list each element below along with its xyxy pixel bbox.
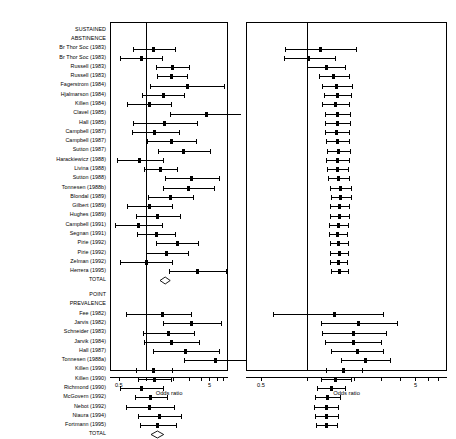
study-ci-cap [175, 232, 176, 237]
study-point-estimate [170, 340, 173, 345]
cumulative-ci-cap [307, 65, 308, 70]
cumulative-ci-cap [326, 368, 327, 373]
cumulative-ci-cap [348, 269, 349, 274]
study-label: Hall (1985) [79, 120, 106, 125]
x-axis-line-right [246, 377, 447, 378]
cumulative-ci-cap [322, 84, 323, 89]
study-ci-cap [210, 149, 211, 154]
study-label: Harackiewicz (1988) [56, 157, 106, 162]
cumulative-ci-cap [383, 312, 384, 317]
study-ci-cap [176, 423, 177, 428]
cumulative-point-estimate [336, 167, 339, 172]
cumulative-point-estimate [325, 414, 328, 419]
cumulative-point-estimate [335, 130, 338, 135]
x-axis-tick [354, 377, 355, 381]
x-axis-tick [438, 377, 439, 381]
cumulative-ci-cap [330, 204, 331, 209]
study-ci-cap [171, 102, 172, 107]
x-axis-tick [119, 377, 120, 381]
x-axis-tick [261, 377, 262, 381]
study-ci-cap [165, 176, 166, 181]
study-label: Jarvik (1984) [74, 339, 106, 344]
cumulative-ci-cap [350, 149, 351, 154]
study-label: Russell (1983) [71, 64, 106, 69]
study-ci-cap [150, 84, 151, 89]
cumulative-point-estimate [334, 102, 337, 107]
cumulative-ci-cap [338, 405, 339, 410]
cumulative-point-estimate [364, 358, 367, 363]
study-label: Campbell (1991) [65, 222, 106, 227]
x-axis-tick-label: 0.5 [251, 382, 271, 388]
study-ci-cap [132, 130, 133, 135]
cumulative-ci-cap [285, 47, 286, 52]
x-axis-tick [201, 377, 202, 381]
cumulative-ci-cap [348, 167, 349, 172]
cumulative-ci-cap [335, 56, 336, 61]
study-point-estimate [182, 149, 185, 154]
study-label: Hjalmarson (1984) [61, 92, 106, 97]
study-ci-cap [163, 321, 164, 326]
x-axis-tick [415, 377, 416, 381]
study-ci-cap [127, 102, 128, 107]
cumulative-ci-cap [330, 214, 331, 219]
study-label: Nebot (1992) [74, 404, 106, 409]
cumulative-point-estimate [336, 232, 339, 237]
cumulative-point-estimate [356, 349, 359, 354]
cumulative-point-estimate [336, 158, 339, 163]
cumulative-ci-cap [397, 321, 398, 326]
cumulative-point-estimate [337, 149, 340, 154]
cumulative-ci-cap [348, 251, 349, 256]
study-ci-cap [126, 405, 127, 410]
study-point-estimate [156, 423, 159, 428]
cumulative-ci-cap [338, 414, 339, 419]
study-point-estimate [152, 368, 155, 373]
cumulative-ci-cap [352, 84, 353, 89]
study-label: Campbell (1987) [65, 129, 106, 134]
study-ci-cap [196, 139, 197, 144]
cumulative-ci-cap [328, 176, 329, 181]
cumulative-point-estimate [336, 121, 339, 126]
study-label: Russell (1983) [71, 73, 106, 78]
study-ci-cap [144, 167, 145, 172]
study-point-estimate [187, 186, 190, 191]
cumulative-ci-cap [356, 47, 357, 52]
cumulative-ci-cap [351, 186, 352, 191]
cumulative-point-estimate [336, 139, 339, 144]
cumulative-ci-line [273, 314, 383, 315]
study-label: Schneider (1983) [64, 329, 106, 334]
study-point-estimate [171, 65, 174, 70]
study-label: Tonnesen (1988b) [62, 185, 106, 190]
study-label: Herrera (1995) [70, 268, 106, 273]
study-ci-cap [172, 204, 173, 209]
cumulative-ci-cap [330, 186, 331, 191]
study-ci-cap [156, 241, 157, 246]
cumulative-ci-cap [345, 65, 346, 70]
cumulative-point-estimate [337, 241, 340, 246]
study-point-estimate [145, 260, 148, 265]
study-ci-cap [117, 158, 118, 163]
cumulative-ci-cap [381, 340, 382, 345]
study-point-estimate [163, 121, 166, 126]
cumulative-ci-cap [347, 232, 348, 237]
cumulative-ci-cap [331, 349, 332, 354]
study-label: Fagerstrom (1984) [61, 82, 107, 87]
x-axis-tick [428, 377, 429, 381]
cumulative-ci-cap [337, 423, 338, 428]
study-label: Tonnesen (1988a) [62, 357, 106, 362]
study-ci-cap [219, 349, 220, 354]
cumulative-point-estimate [337, 260, 340, 265]
cumulative-ci-cap [329, 232, 330, 237]
study-ci-cap [115, 223, 116, 228]
study-ci-cap [172, 260, 173, 265]
cumulative-ci-cap [349, 74, 350, 79]
study-ci-cap [179, 130, 180, 135]
cumulative-ci-cap [315, 414, 316, 419]
study-point-estimate [148, 102, 151, 107]
study-point-estimate [169, 195, 172, 200]
study-point-estimate [214, 358, 217, 363]
study-ci-cap [174, 405, 175, 410]
study-ci-cap [162, 223, 163, 228]
cumulative-ci-cap [319, 74, 320, 79]
cumulative-ci-cap [349, 139, 350, 144]
